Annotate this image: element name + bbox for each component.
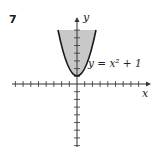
y-axis-arrow-icon: [75, 17, 80, 22]
graph: y x y = x² + 1: [0, 0, 157, 152]
curve-label: y = x² + 1: [87, 57, 142, 69]
y-axis-label: y: [82, 11, 90, 24]
x-axis-label: x: [142, 87, 149, 100]
x-axis-arrow-icon: [146, 82, 151, 87]
figure: 7: [0, 0, 157, 152]
